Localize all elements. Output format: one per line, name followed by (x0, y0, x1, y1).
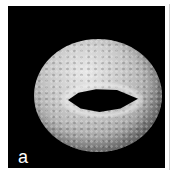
micrograph-panel: a (8, 6, 165, 168)
panel-label: a (18, 148, 28, 166)
panel-divider (169, 4, 170, 170)
